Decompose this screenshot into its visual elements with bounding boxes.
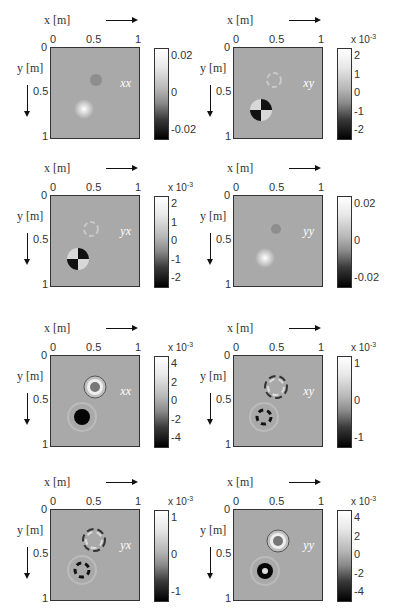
x-axis-label: x [m] (44, 13, 70, 28)
colorbar-tick: 4 (171, 358, 177, 369)
colorbar-tick: -1 (171, 586, 181, 597)
x-tick: 0.5 (269, 496, 284, 507)
x-tick: 0.5 (86, 342, 101, 353)
component-label: yy (303, 224, 314, 239)
colorbar-tick: 0 (171, 549, 177, 560)
y-tick: 1 (42, 593, 48, 604)
y-tick: 0.5 (33, 394, 48, 405)
panel-xy-6: x [m] 0 0.5 1 0 0.5 1 y [m] xy x 10-3 10… (195, 308, 392, 458)
y-axis-label: y [m] (17, 523, 43, 538)
colorbar-scale-label: x 10-3 (351, 341, 376, 353)
colorbar (154, 196, 169, 288)
y-tick: 1 (225, 593, 231, 604)
x-tick: 0 (50, 342, 56, 353)
colorbar (154, 356, 169, 448)
x-tick: 1 (318, 34, 324, 45)
x-tick: 0 (233, 182, 239, 193)
y-tick: 1 (42, 131, 48, 142)
y-axis-label: y [m] (17, 369, 43, 384)
colorbar (154, 510, 169, 602)
x-axis-label: x [m] (227, 475, 253, 490)
colorbar-scale-base: x 10 (168, 496, 187, 507)
x-tick: 0.5 (86, 496, 101, 507)
x-tick: 0 (233, 34, 239, 45)
colorbar-tick: -1 (354, 106, 364, 117)
colorbar-tick: 0 (354, 395, 360, 406)
colorbar-tick: -2 (354, 568, 364, 579)
heatmap-plot: xx (50, 47, 140, 139)
colorbar-scale-base: x 10 (168, 342, 187, 353)
colorbar-tick: -0.02 (354, 272, 379, 283)
heatmap-plot: xy (233, 47, 323, 139)
colorbar-tick: -4 (354, 586, 364, 597)
colorbar-tick: 2 (354, 531, 360, 542)
y-axis-label: y [m] (17, 61, 43, 76)
panel-yx-3: x [m] 0 0.5 1 0 0.5 1 y [m] yx x 10-3 21… (0, 148, 197, 298)
colorbar-tick: 1 (171, 512, 177, 523)
x-direction-arrow-icon (289, 328, 319, 329)
colorbar-tick: 4 (354, 512, 360, 523)
x-tick: 1 (135, 496, 141, 507)
y-axis-label: y [m] (200, 369, 226, 384)
y-tick: 0 (41, 350, 47, 361)
x-tick: 0.5 (269, 342, 284, 353)
component-label: xx (120, 76, 131, 91)
heatmap-plot: yx (50, 195, 140, 287)
y-direction-arrow-icon (210, 233, 211, 263)
x-direction-arrow-icon (106, 328, 136, 329)
y-axis-label: y [m] (200, 61, 226, 76)
y-tick: 0 (224, 504, 230, 515)
y-axis-label: y [m] (200, 209, 226, 224)
colorbar-scale-power: -3 (187, 341, 193, 348)
y-axis-label: y [m] (200, 523, 226, 538)
heatmap-plot: xy (233, 355, 323, 447)
x-tick: 1 (135, 34, 141, 45)
component-label: yx (120, 224, 131, 239)
colorbar-tick: 0 (171, 87, 177, 98)
component-label: yx (120, 538, 131, 553)
y-direction-arrow-icon (27, 233, 28, 263)
y-direction-arrow-icon (27, 85, 28, 115)
colorbar-tick: -2 (354, 124, 364, 135)
colorbar-tick: -2 (171, 272, 181, 283)
y-tick: 0.5 (216, 394, 231, 405)
y-tick: 0 (224, 350, 230, 361)
colorbar-tick: -1 (354, 432, 364, 443)
x-tick: 0.5 (269, 34, 284, 45)
panel-xx-5: x [m] 0 0.5 1 0 0.5 1 y [m] xx x 10-3 42… (0, 308, 197, 458)
x-tick: 0 (50, 496, 56, 507)
x-tick: 1 (318, 496, 324, 507)
x-tick: 1 (135, 182, 141, 193)
heatmap-plot: yy (233, 195, 323, 287)
y-tick: 1 (225, 279, 231, 290)
colorbar-scale-base: x 10 (351, 34, 370, 45)
heatmap-plot: yy (233, 509, 323, 601)
colorbar-tick: 2 (354, 50, 360, 61)
colorbar-tick: 2 (171, 377, 177, 388)
y-axis-label: y [m] (17, 209, 43, 224)
x-direction-arrow-icon (289, 20, 319, 21)
x-direction-arrow-icon (106, 20, 136, 21)
colorbar-scale-power: -3 (370, 495, 376, 502)
colorbar-scale-label: x 10-3 (168, 341, 193, 353)
colorbar (154, 48, 169, 140)
colorbar-tick: 0 (171, 395, 177, 406)
x-direction-arrow-icon (289, 168, 319, 169)
y-tick: 1 (42, 279, 48, 290)
colorbar-tick: -4 (171, 432, 181, 443)
colorbar-scale-base: x 10 (168, 182, 187, 193)
colorbar-scale-label: x 10-3 (351, 33, 376, 45)
colorbar (337, 196, 352, 288)
colorbar-scale-base: x 10 (351, 496, 370, 507)
colorbar-tick: 0 (354, 87, 360, 98)
heatmap-plot: yx (50, 509, 140, 601)
x-tick: 0.5 (269, 182, 284, 193)
y-tick: 0.5 (216, 86, 231, 97)
x-tick: 0 (233, 342, 239, 353)
colorbar (337, 48, 352, 140)
colorbar-tick: 2 (171, 198, 177, 209)
x-direction-arrow-icon (289, 482, 319, 483)
colorbar-tick: 0 (354, 235, 360, 246)
y-tick: 0 (41, 504, 47, 515)
colorbar-scale-power: -3 (187, 495, 193, 502)
